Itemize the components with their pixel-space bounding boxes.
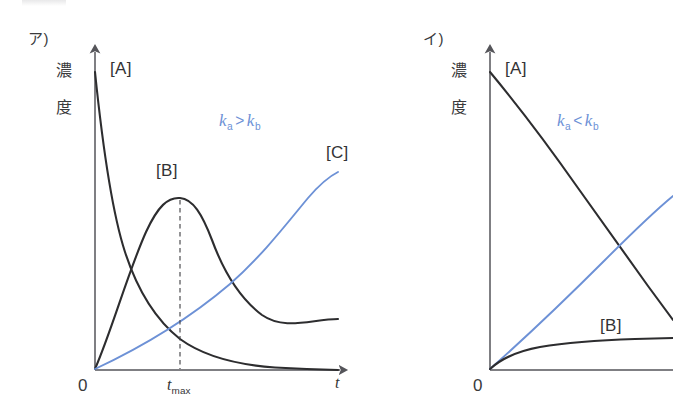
species-label-a-A: [A] [110, 60, 132, 77]
y-axis-label-char-2: 度 [451, 100, 467, 116]
tmax-subscript: max [171, 385, 190, 396]
y-axis-label-char-1: 濃 [451, 63, 467, 79]
curve-species-b [95, 198, 338, 369]
y-axis-label-b: 濃 度 [451, 63, 467, 116]
rate-relation-a: ka>kb [219, 112, 261, 133]
species-label-a-B: [B] [156, 162, 178, 179]
figure-root: ア) 濃 度 [A] [B] [C] ka>kb 0 tmax t [0, 0, 673, 408]
y-axis-label-char-1: 濃 [56, 63, 72, 79]
origin-label-b: 0 [473, 377, 482, 394]
x-axis-label-a: t [335, 375, 339, 391]
rate-k-b: k [247, 111, 255, 130]
origin-label-a: 0 [78, 377, 87, 394]
rate-k-a: k [557, 111, 565, 130]
rate-k-a: k [219, 111, 227, 130]
rate-operator-a: > [235, 112, 245, 129]
curve-species-a [95, 72, 338, 370]
rate-sub-b: b [255, 121, 261, 132]
y-axis-label-char-2: 度 [56, 100, 72, 116]
panel-b: イ) 濃 度 [A] [B] ka<kb 0 [360, 0, 673, 408]
rate-operator-b: < [573, 112, 583, 129]
species-label-b-B: [B] [600, 317, 622, 334]
rate-sub-b: b [593, 121, 599, 132]
rate-sub-a: a [565, 121, 571, 132]
tmax-label: tmax [167, 377, 191, 396]
species-label-b-A: [A] [505, 60, 527, 77]
panel-a-plot [0, 0, 360, 408]
panel-tag-a: ア) [28, 31, 49, 46]
curve-species-b [490, 338, 673, 369]
panel-a: ア) 濃 度 [A] [B] [C] ka>kb 0 tmax t [0, 0, 360, 408]
panel-tag-b: イ) [423, 31, 444, 46]
species-label-a-C: [C] [326, 144, 349, 161]
rate-relation-b: ka<kb [557, 112, 599, 133]
rate-k-b: k [585, 111, 593, 130]
rate-sub-a: a [227, 121, 233, 132]
y-axis-label-a: 濃 度 [56, 63, 72, 116]
